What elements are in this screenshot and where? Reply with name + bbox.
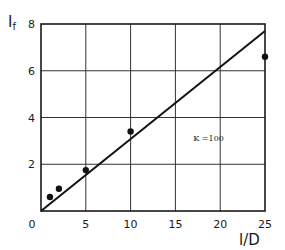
x-tick-label: 25 xyxy=(258,218,272,231)
x-tick-label: 10 xyxy=(124,218,138,231)
data-points xyxy=(47,54,268,201)
x-tick-label: 20 xyxy=(213,218,227,231)
y-tick-label: 4 xyxy=(28,112,35,125)
y-tick-labels: 2468 xyxy=(28,18,35,171)
x-tick-label: 15 xyxy=(168,218,182,231)
y-axis-title: If xyxy=(8,13,16,32)
x-tick-label: 0 xyxy=(29,218,36,231)
y-tick-label: 8 xyxy=(28,18,35,31)
chart: 0510152025 2468 l/D If K =100 xyxy=(0,0,285,250)
y-tick-label: 6 xyxy=(28,65,35,78)
x-tick-label: 5 xyxy=(82,218,89,231)
fit-line xyxy=(41,31,265,211)
annotation-k: K =100 xyxy=(193,134,224,143)
data-point xyxy=(47,194,53,200)
data-point xyxy=(262,54,268,60)
x-axis-title: l/D xyxy=(239,231,260,249)
x-tick-labels: 0510152025 xyxy=(29,218,273,231)
data-point xyxy=(83,167,89,173)
y-tick-label: 2 xyxy=(28,158,35,171)
data-point xyxy=(127,128,133,134)
data-point xyxy=(56,186,62,192)
